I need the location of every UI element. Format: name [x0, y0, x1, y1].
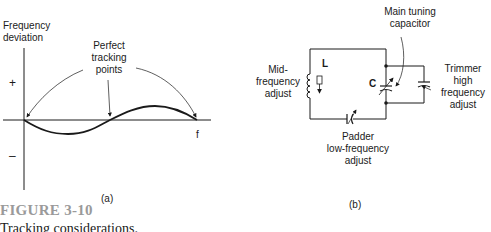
annotation-line2: tracking — [84, 52, 134, 64]
inductor-coil — [307, 74, 310, 98]
figure-caption: Tracking considerations. — [0, 221, 138, 232]
panel-b-label: (b) — [349, 199, 361, 211]
arrow-to-second-tracking-point — [108, 80, 110, 116]
inductor-slug-core — [317, 76, 322, 84]
arrow-to-third-tracking-point — [136, 68, 196, 117]
mid-label-line2: frequency — [250, 76, 306, 88]
trimmer-label-line3: frequency — [435, 87, 491, 99]
capacitor-label: C — [369, 78, 376, 90]
trimmer-label-line4: adjust — [435, 99, 491, 111]
minus-sign: – — [9, 150, 16, 162]
main-cap-pointer-arrow — [396, 37, 404, 86]
main-cap-label-line2: capacitor — [375, 18, 445, 30]
main-cap-label-line1: Main tuning — [375, 6, 445, 18]
padder-label-line2: low-frequency — [318, 143, 398, 155]
trimmer-label-line1: Trimmer — [435, 63, 491, 75]
mid-label-line1: Mid- — [250, 64, 306, 76]
annotation-line3: points — [84, 64, 134, 76]
padder-label-line1: Padder — [318, 131, 398, 143]
y-axis-label-line2: deviation — [3, 32, 43, 44]
annotation-line1: Perfect — [84, 40, 134, 52]
panel-a-label: (a) — [101, 193, 113, 205]
arrow-to-first-tracking-point — [27, 70, 83, 117]
figure-drawing — [0, 0, 491, 232]
inductor-label: L — [322, 58, 328, 70]
figure-number: FIGURE 3-10 — [0, 202, 93, 219]
x-axis-label: f — [196, 129, 199, 141]
trimmer-label-line2: high — [435, 75, 491, 87]
y-axis-label-line1: Frequency — [3, 20, 50, 32]
plus-sign: + — [9, 77, 16, 89]
mid-label-line3: adjust — [250, 88, 306, 100]
padder-label-line3: adjust — [318, 155, 398, 167]
